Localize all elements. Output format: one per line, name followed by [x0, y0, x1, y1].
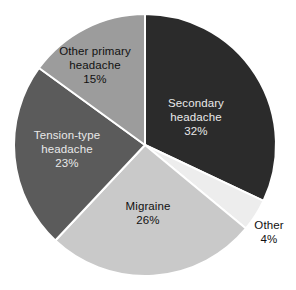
- slice-label-line: headache: [153, 110, 239, 124]
- slice-label-migraine: Migraine 26%: [108, 199, 188, 227]
- slice-label-line: Migraine: [108, 199, 188, 213]
- slice-label-line: headache: [21, 142, 113, 156]
- slice-label-line: Other: [247, 218, 291, 232]
- slice-value: 4%: [247, 232, 291, 246]
- slice-value: 15%: [49, 72, 141, 86]
- slice-label-tension-type-headache: Tension-type headache 23%: [21, 128, 113, 170]
- slice-value: 23%: [21, 156, 113, 170]
- pie-chart: Secondary headache 32% Other primary hea…: [0, 0, 296, 290]
- slice-label-other-primary-headache: Other primary headache 15%: [49, 44, 141, 86]
- slice-label-line: Secondary: [153, 96, 239, 110]
- slice-value: 26%: [108, 213, 188, 227]
- slice-value: 32%: [153, 124, 239, 138]
- slice-label-other: Other 4%: [247, 218, 291, 246]
- slice-label-line: Tension-type: [21, 128, 113, 142]
- slice-label-line: headache: [49, 58, 141, 72]
- slice-label-secondary-headache: Secondary headache 32%: [153, 96, 239, 138]
- slice-label-line: Other primary: [49, 44, 141, 58]
